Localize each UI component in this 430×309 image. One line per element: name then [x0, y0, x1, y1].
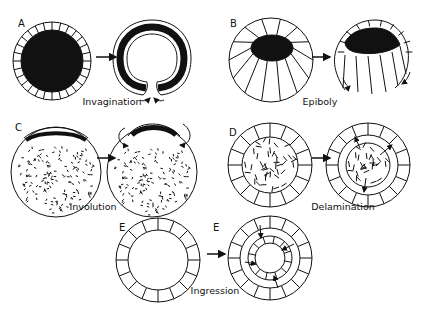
- panel-a-before: [13, 22, 91, 100]
- caption-delamination: Delamination: [311, 201, 375, 212]
- panel-b-before: [229, 18, 313, 102]
- panel-letter-a: A: [18, 18, 25, 29]
- panel-letter-d: D: [229, 127, 237, 138]
- gastrulation-diagram: [0, 0, 430, 309]
- panel-letter-e-after: E: [213, 222, 219, 233]
- panel-a-after: [113, 20, 191, 101]
- caption-ingression: Ingression: [191, 285, 240, 296]
- panel-d-before: [228, 123, 312, 207]
- caption-epiboly: Epiboly: [303, 96, 338, 107]
- panel-e-after: [228, 216, 312, 300]
- panel-letter-b: B: [230, 18, 237, 29]
- caption-invagination: Invagination: [83, 96, 142, 107]
- panel-letter-c: C: [15, 122, 22, 133]
- caption-involution: Involution: [69, 201, 116, 212]
- panel-d-after: [326, 123, 410, 207]
- panel-e-before: [116, 218, 200, 302]
- panel-letter-e: E: [119, 222, 125, 233]
- panel-b-after: [334, 20, 412, 94]
- panel-c-after: [107, 124, 197, 217]
